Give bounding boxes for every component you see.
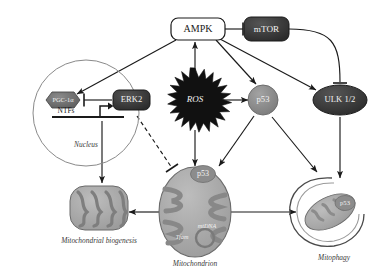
edge-ampk-p53 xyxy=(216,40,256,84)
nucleus-caption: Nucleus xyxy=(73,140,98,149)
edge-ampk-pgc1a xyxy=(77,40,176,94)
node-mitophagy-p53[interactable]: p53 xyxy=(335,196,355,211)
node-p53[interactable]: p53 xyxy=(248,85,278,115)
biogenesis-caption: Mitochondrial biogenesis xyxy=(60,236,137,245)
compartment-mitophagy: p53 Mitophagy xyxy=(290,178,364,262)
node-mtdna-label: mtDNA xyxy=(198,222,217,229)
edge-ampk-mtor xyxy=(225,23,243,36)
edge-p53-mitochondrion xyxy=(219,116,254,166)
node-erk2-label: ERK2 xyxy=(121,94,142,104)
node-tfam-label: Tfam xyxy=(176,233,189,240)
mitophagy-caption: Mitophagy xyxy=(317,253,351,262)
node-pgc1a-label: PGC-1α xyxy=(52,96,74,103)
node-mitophagy-p53-label: p53 xyxy=(340,199,351,206)
pathway-canvas: Nucleus PGC-1α NTFs ERK2 AMPK mTOR ROS xyxy=(0,0,388,268)
node-mtor[interactable]: mTOR xyxy=(244,17,289,41)
edge-p53-mitophagy xyxy=(272,117,317,172)
nucleus-compartment: Nucleus xyxy=(33,60,139,166)
edge-erk2-pgc1a xyxy=(84,94,112,107)
mitochondrion-caption: Mitochondrion xyxy=(172,259,218,268)
node-ampk-label: AMPK xyxy=(184,23,214,34)
node-erk2[interactable]: ERK2 xyxy=(113,90,150,110)
edge-erk2-mitochondrion xyxy=(137,116,178,172)
node-ampk[interactable]: AMPK xyxy=(171,18,225,40)
node-mito-p53[interactable]: p53 xyxy=(191,166,216,183)
node-mtor-label: mTOR xyxy=(254,24,280,34)
node-ulk[interactable]: ULK 1/2 xyxy=(313,85,367,115)
node-mito-p53-label: p53 xyxy=(197,169,209,178)
edge-ampk-ulk xyxy=(220,39,316,90)
node-p53-label: p53 xyxy=(257,94,270,104)
compartment-mitochondrion: mtDNA Tfam p53 Mitochondrion xyxy=(159,166,231,268)
pathway-diagram: Nucleus PGC-1α NTFs ERK2 AMPK mTOR ROS xyxy=(0,0,388,268)
edge-mtor-ulk xyxy=(289,29,347,83)
node-ntfs-label: NTFs xyxy=(58,106,75,115)
node-ros-label: ROS xyxy=(186,94,204,104)
compartment-biogenesis: Mitochondrial biogenesis xyxy=(60,186,137,245)
node-ulk-label: ULK 1/2 xyxy=(325,94,356,104)
node-ros[interactable]: ROS xyxy=(168,68,232,132)
